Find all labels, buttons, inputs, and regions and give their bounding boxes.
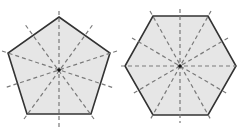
hexagon-group (121, 9, 240, 123)
pentagon-center-dot (57, 68, 61, 72)
pentagon-group (2, 11, 117, 128)
symmetry-diagram (0, 0, 242, 131)
hexagon-center-dot (178, 64, 182, 68)
diagram-canvas (0, 0, 242, 131)
pentagon-shape (8, 17, 110, 114)
